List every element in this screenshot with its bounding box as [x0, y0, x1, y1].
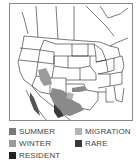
summer-swatch: [9, 128, 16, 135]
legend-label: SUMMER: [19, 127, 55, 136]
legend-item-resident: RESIDENT: [9, 150, 60, 160]
legend-label: WINTER: [19, 139, 51, 148]
legend-item-rare: RARE: [75, 138, 108, 148]
winter-swatch: [9, 140, 16, 147]
legend-label: MIGRATION: [85, 127, 131, 136]
legend-item-summer: SUMMER: [9, 126, 55, 136]
resident-swatch: [9, 152, 16, 159]
legend-item-migration: MIGRATION: [75, 126, 131, 136]
legend-item-winter: WINTER: [9, 138, 51, 148]
rare-swatch: [75, 140, 82, 147]
range-map-svg: [10, 4, 132, 120]
range-map: [9, 3, 133, 121]
legend-label: RESIDENT: [19, 151, 60, 160]
migration-swatch: [75, 128, 82, 135]
legend-label: RARE: [85, 139, 108, 148]
